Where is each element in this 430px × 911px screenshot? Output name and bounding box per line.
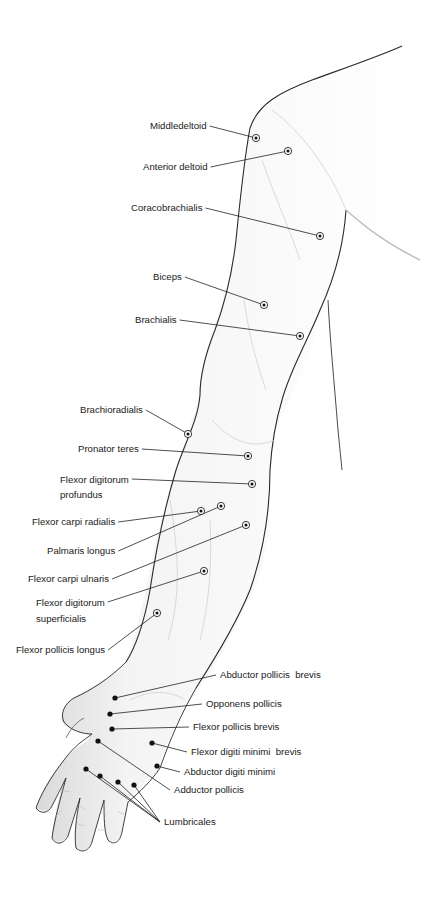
motor-point-icon [287,150,290,153]
motor-point-icon [245,524,248,527]
motor-point-icon [107,711,112,716]
motor-point-icon [154,763,159,768]
label-lumbricales: Lumbricales [164,815,216,829]
leader-line [157,766,180,772]
motor-point-icon [131,782,136,787]
label-opponens-pollicis: Opponens pollicis [206,697,282,711]
motor-point-icon [112,695,117,700]
motor-point-icon [187,433,190,436]
upper-limb-motor-point-diagram: Middledeltoid Anterior deltoid Coracobra… [0,0,430,911]
motor-point-icon [299,335,302,338]
motor-point-icon [220,505,223,508]
motor-point-icon [83,766,88,771]
label-flexor-pollicis-longus: Flexor pollicis longus [16,643,105,657]
motor-point-icon [97,773,102,778]
motor-point-icon [319,235,322,238]
leader-line [134,785,160,822]
label-coracobrachialis: Coracobrachialis [131,201,202,215]
label-abductor-digiti-minimi: Abductor digiti minimi [184,765,275,779]
motor-point-icon [149,740,154,745]
label-flexor-carpi-ulnaris: Flexor carpi ulnaris [28,572,109,586]
label-biceps: Biceps [153,270,182,284]
motor-point-icon [115,779,120,784]
motor-point-icon [255,137,258,140]
leader-line [146,410,188,434]
motor-point-icon [156,612,159,615]
motor-point-icon [200,510,203,513]
label-middle-deltoid: Middledeltoid [150,119,207,133]
label-brachioradialis: Brachioradialis [80,403,143,417]
label-palmaris-longus: Palmaris longus [47,544,115,558]
label-flexor-digitorum-superficialis: Flexor digitorum superficialis [36,595,105,627]
label-flexor-carpi-radialis: Flexor carpi radialis [32,515,115,529]
motor-point-icon [263,304,266,307]
label-brachialis: Brachialis [135,313,177,327]
motor-point-icon [251,483,254,486]
label-anterior-deltoid: Anterior deltoid [143,160,208,174]
motor-point-icon [109,726,114,731]
label-pronator-teres: Pronator teres [78,442,139,456]
label-flexor-digitorum-profundus: Flexor digitorum profundus [60,472,129,502]
motor-point-icon [95,738,100,743]
motor-point-icon [203,570,206,573]
label-flexor-digiti-minimi-brevis: Flexor digiti minimi brevis [191,745,301,759]
label-flexor-pollicis-brevis: Flexor pollicis brevis [193,720,279,734]
label-abductor-pollicis-brevis: Abductor pollicis brevis [220,668,321,682]
motor-point-icon [247,455,250,458]
torso-outline [328,300,342,470]
label-adductor-pollicis: Adductor pollicis [174,783,244,797]
